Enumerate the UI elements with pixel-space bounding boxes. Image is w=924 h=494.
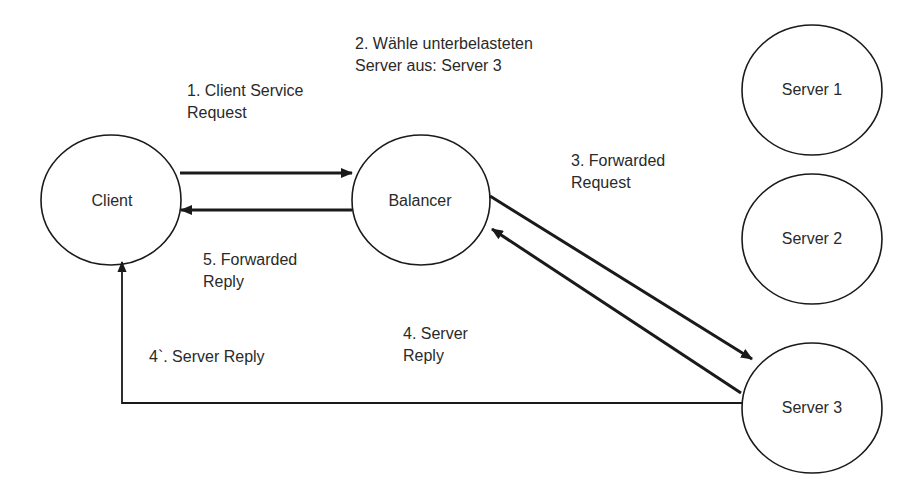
arrow-forwarded-request	[490, 196, 752, 359]
server3-label: Server 3	[782, 399, 842, 417]
arrow-server-reply	[492, 229, 741, 393]
step3-label: 3. Forwarded Request	[571, 150, 665, 194]
step4b-label: 4`. Server Reply	[149, 346, 265, 368]
client-label: Client	[92, 192, 133, 210]
step1-label: 1. Client Service Request	[187, 80, 304, 124]
server2-label: Server 2	[782, 230, 842, 248]
step4-label: 4. Server Reply	[403, 323, 468, 367]
balancer-label: Balancer	[388, 192, 451, 210]
server1-label: Server 1	[782, 81, 842, 99]
step2-label: 2. Wähle unterbelasteten Server aus: Ser…	[355, 33, 533, 77]
step5-label: 5. Forwarded Reply	[203, 249, 297, 293]
